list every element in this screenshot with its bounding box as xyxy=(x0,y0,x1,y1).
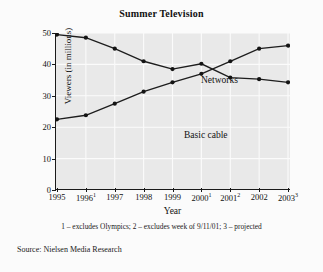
y-axis-title: Viewers (in millions) xyxy=(63,11,73,121)
x-tick-mark xyxy=(230,188,231,192)
chart-footnote: 1 – excludes Olympics; 2 – excludes week… xyxy=(0,222,323,231)
x-tick-label: 20033 xyxy=(278,192,298,203)
y-tick-label: 10 xyxy=(30,154,51,164)
x-tick-label: 20001 xyxy=(191,192,211,203)
x-tick-mark xyxy=(288,188,289,192)
x-tick-label: 20012 xyxy=(220,192,240,203)
x-tick-label: 1997 xyxy=(106,192,123,202)
y-tick-mark xyxy=(52,159,56,160)
y-tick-label: 30 xyxy=(30,91,51,101)
x-tick-mark xyxy=(144,188,145,192)
y-tick-label: 40 xyxy=(30,59,51,69)
x-tick-mark xyxy=(259,188,260,192)
y-tick-mark xyxy=(52,96,56,97)
x-axis-title: Year xyxy=(55,206,290,216)
x-tick-label: 2002 xyxy=(251,192,268,202)
plot-wrapper: 01020304050 Viewers (in millions) 199519… xyxy=(55,33,290,190)
chart-source: Source: Nielsen Media Research xyxy=(17,245,122,254)
y-tick-mark xyxy=(52,127,56,128)
series-label-networks: Networks xyxy=(201,75,238,85)
y-tick-label: 50 xyxy=(30,28,51,38)
x-tick-mark xyxy=(201,188,202,192)
page-title: Summer Television xyxy=(0,8,323,19)
chart-figure: Summer Television 01020304050 Viewers (i… xyxy=(0,0,323,272)
x-tick-mark xyxy=(173,188,174,192)
y-tick-mark xyxy=(52,64,56,65)
x-tick-label: 19961 xyxy=(76,192,96,203)
x-tick-label: 1998 xyxy=(135,192,152,202)
x-tick-label: 1995 xyxy=(49,192,66,202)
y-tick-mark xyxy=(52,33,56,34)
x-tick-label: 1999 xyxy=(164,192,181,202)
series-label-basic-cable: Basic cable xyxy=(184,130,228,140)
y-axis-ticks: 01020304050 xyxy=(55,33,290,190)
y-tick-mark xyxy=(52,190,56,191)
x-tick-mark xyxy=(57,188,58,192)
y-tick-label: 20 xyxy=(30,122,51,132)
x-tick-mark xyxy=(115,188,116,192)
x-tick-mark xyxy=(86,188,87,192)
